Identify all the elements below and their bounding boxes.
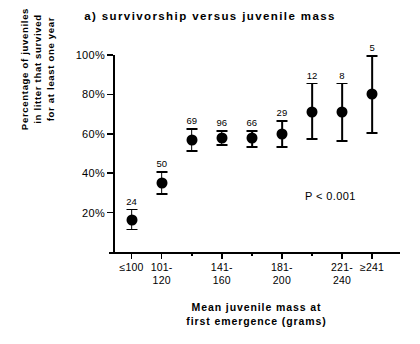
error-bar-cap-bottom xyxy=(186,150,197,152)
error-bar-cap-top xyxy=(276,120,287,122)
data-point-group: 50 xyxy=(155,55,169,252)
x-axis-tick-label: ≥241 xyxy=(349,261,395,274)
sample-size-label: 50 xyxy=(156,158,167,169)
error-bar-cap-top xyxy=(156,171,167,173)
y-axis-tick xyxy=(107,133,113,135)
y-axis-title: Percentage of juveniles in litter that s… xyxy=(14,0,60,172)
sample-size-label: 24 xyxy=(126,196,137,207)
error-bar-cap-top xyxy=(336,83,347,85)
sample-size-label: 5 xyxy=(369,42,374,53)
data-point-group: 69 xyxy=(185,55,199,252)
data-point-marker xyxy=(336,107,347,118)
sample-size-label: 66 xyxy=(247,117,258,128)
error-bar-cap-bottom xyxy=(336,140,347,142)
y-axis-title-text: Percentage of juveniles in litter that s… xyxy=(17,8,56,130)
x-axis-tick xyxy=(251,252,253,256)
sample-size-label: 96 xyxy=(216,117,227,128)
y-axis-tick xyxy=(107,212,113,214)
plot-area: 20%40%60%80%100%≤100101- 120141- 160181-… xyxy=(113,55,400,252)
p-value-annotation: P < 0.001 xyxy=(305,190,356,202)
y-axis-tick-label: 60% xyxy=(82,128,105,140)
y-axis-tick xyxy=(107,172,113,174)
data-point-group: 5 xyxy=(365,55,379,252)
data-point-marker xyxy=(126,215,137,226)
error-bar-cap-bottom xyxy=(306,138,317,140)
error-bar-cap-top xyxy=(126,209,137,211)
x-axis-tick xyxy=(311,252,313,256)
data-point-marker xyxy=(246,132,257,143)
y-axis-tick xyxy=(107,54,113,56)
sample-size-label: 69 xyxy=(186,115,197,126)
x-axis-title: Mean juvenile mass at first emergence (g… xyxy=(113,300,400,328)
y-axis-tick-label: 80% xyxy=(82,88,105,100)
x-axis-tick xyxy=(221,252,223,259)
data-point-marker xyxy=(276,128,287,139)
sample-size-label: 8 xyxy=(339,70,344,81)
x-axis-tick xyxy=(371,252,373,259)
data-point-marker xyxy=(216,132,227,143)
error-bar-cap-top xyxy=(186,128,197,130)
data-point-marker xyxy=(306,107,317,118)
data-point-group: 66 xyxy=(245,55,259,252)
data-point-marker xyxy=(186,134,197,145)
y-axis-tick-label: 20% xyxy=(82,207,105,219)
data-point-group: 24 xyxy=(125,55,139,252)
data-point-marker xyxy=(367,89,378,100)
y-axis-line xyxy=(113,55,115,252)
y-axis-tick xyxy=(107,94,113,96)
x-axis-line xyxy=(109,252,400,254)
error-bar-cap-bottom xyxy=(246,146,257,148)
data-point-group: 8 xyxy=(335,55,349,252)
error-bar-cap-bottom xyxy=(276,146,287,148)
sample-size-label: 12 xyxy=(307,70,318,81)
error-bar-cap-bottom xyxy=(367,132,378,134)
y-axis-tick-label: 40% xyxy=(82,167,105,179)
error-bar-cap-bottom xyxy=(156,193,167,195)
data-point-group: 29 xyxy=(275,55,289,252)
error-bar-cap-top xyxy=(306,83,317,85)
x-axis-tick-label: 101- 120 xyxy=(139,261,185,286)
error-bar-cap-bottom xyxy=(216,144,227,146)
x-axis-tick xyxy=(191,252,193,256)
data-point-group: 12 xyxy=(305,55,319,252)
chart-title: a) survivorship versus juvenile mass xyxy=(0,10,420,22)
error-bar-cap-top xyxy=(367,55,378,57)
y-axis-tick-label: 100% xyxy=(76,49,105,61)
data-point-marker xyxy=(156,178,167,189)
x-axis-tick-label: 181- 200 xyxy=(259,261,305,286)
x-axis-tick xyxy=(161,252,163,259)
x-axis-tick xyxy=(131,252,133,259)
sample-size-label: 29 xyxy=(277,107,288,118)
data-point-group: 96 xyxy=(215,55,229,252)
x-axis-tick xyxy=(281,252,283,259)
x-axis-tick xyxy=(341,252,343,259)
chart-figure: a) survivorship versus juvenile mass Per… xyxy=(0,0,420,344)
x-axis-tick-label: 141- 160 xyxy=(199,261,245,286)
error-bar-cap-bottom xyxy=(126,229,137,231)
